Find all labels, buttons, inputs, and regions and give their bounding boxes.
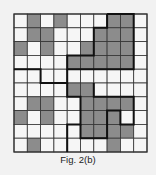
shaded-cell <box>120 42 133 56</box>
empty-cell <box>134 69 147 83</box>
empty-cell <box>54 69 67 83</box>
empty-cell <box>67 14 80 28</box>
empty-cell <box>14 14 27 28</box>
empty-cell <box>120 111 133 125</box>
shaded-cell <box>41 97 54 111</box>
empty-cell <box>81 28 94 42</box>
shaded-cell <box>94 28 107 42</box>
empty-cell <box>27 55 40 69</box>
empty-cell <box>134 42 147 56</box>
empty-cell <box>54 111 67 125</box>
figure-caption: Fig. 2(b) <box>0 154 156 165</box>
empty-cell <box>81 14 94 28</box>
empty-cell <box>107 83 120 97</box>
shaded-cell <box>27 97 40 111</box>
empty-cell <box>107 69 120 83</box>
shaded-cell <box>94 111 107 125</box>
empty-cell <box>14 138 27 152</box>
empty-cell <box>67 42 80 56</box>
empty-cell <box>54 55 67 69</box>
empty-cell <box>134 55 147 69</box>
shaded-cell <box>81 42 94 56</box>
empty-cell <box>54 83 67 97</box>
grid-figure: Fig. 2(b) <box>0 0 156 175</box>
shaded-cell <box>94 55 107 69</box>
empty-cell <box>134 138 147 152</box>
empty-cell <box>134 28 147 42</box>
shaded-cell <box>120 14 133 28</box>
shaded-cell <box>107 138 120 152</box>
shaded-cell <box>41 111 54 125</box>
empty-cell <box>27 42 40 56</box>
shaded-cell <box>94 124 107 138</box>
empty-cell <box>134 97 147 111</box>
empty-cell <box>134 124 147 138</box>
shaded-cell <box>67 83 80 97</box>
empty-cell <box>54 124 67 138</box>
empty-cell <box>54 97 67 111</box>
empty-cell <box>54 138 67 152</box>
empty-cell <box>27 111 40 125</box>
empty-cell <box>14 69 27 83</box>
empty-cell <box>41 14 54 28</box>
empty-cell <box>67 97 80 111</box>
shaded-cell <box>107 14 120 28</box>
empty-cell <box>41 55 54 69</box>
shaded-cell <box>107 28 120 42</box>
empty-cell <box>14 124 27 138</box>
shaded-cell <box>94 97 107 111</box>
shaded-cell <box>120 97 133 111</box>
empty-cell <box>67 124 80 138</box>
shaded-cell <box>81 124 94 138</box>
empty-cell <box>41 138 54 152</box>
empty-cell <box>67 69 80 83</box>
shaded-cell <box>107 97 120 111</box>
empty-cell <box>14 83 27 97</box>
shaded-cell <box>27 28 40 42</box>
empty-cell <box>120 69 133 83</box>
empty-cell <box>27 124 40 138</box>
shaded-cell <box>54 14 67 28</box>
shaded-cell <box>27 138 40 152</box>
shaded-cell <box>81 111 94 125</box>
empty-cell <box>94 83 107 97</box>
empty-cell <box>54 28 67 42</box>
shaded-cell <box>14 111 27 125</box>
empty-cell <box>134 83 147 97</box>
shaded-cell <box>120 55 133 69</box>
empty-cell <box>120 83 133 97</box>
empty-cell <box>54 42 67 56</box>
shaded-cell <box>94 42 107 56</box>
empty-cell <box>94 138 107 152</box>
empty-cell <box>27 69 40 83</box>
empty-cell <box>81 69 94 83</box>
shaded-cell <box>120 28 133 42</box>
empty-cell <box>41 124 54 138</box>
shaded-cell <box>41 28 54 42</box>
empty-cell <box>14 28 27 42</box>
empty-cell <box>67 28 80 42</box>
empty-cell <box>14 55 27 69</box>
empty-cell <box>41 83 54 97</box>
grid-diagram <box>0 0 156 175</box>
shaded-cell <box>67 55 80 69</box>
empty-cell <box>120 138 133 152</box>
shaded-cell <box>107 124 120 138</box>
shaded-cell <box>81 83 94 97</box>
shaded-cell <box>120 124 133 138</box>
empty-cell <box>67 111 80 125</box>
empty-cell <box>134 14 147 28</box>
empty-cell <box>134 111 147 125</box>
shaded-cell <box>14 42 27 56</box>
shaded-cell <box>107 111 120 125</box>
shaded-cell <box>107 55 120 69</box>
shaded-cell <box>27 14 40 28</box>
shaded-cell <box>107 42 120 56</box>
empty-cell <box>14 97 27 111</box>
empty-cell <box>27 83 40 97</box>
empty-cell <box>67 138 80 152</box>
empty-cell <box>94 69 107 83</box>
empty-cell <box>94 14 107 28</box>
empty-cell <box>81 138 94 152</box>
shaded-cell <box>41 42 54 56</box>
